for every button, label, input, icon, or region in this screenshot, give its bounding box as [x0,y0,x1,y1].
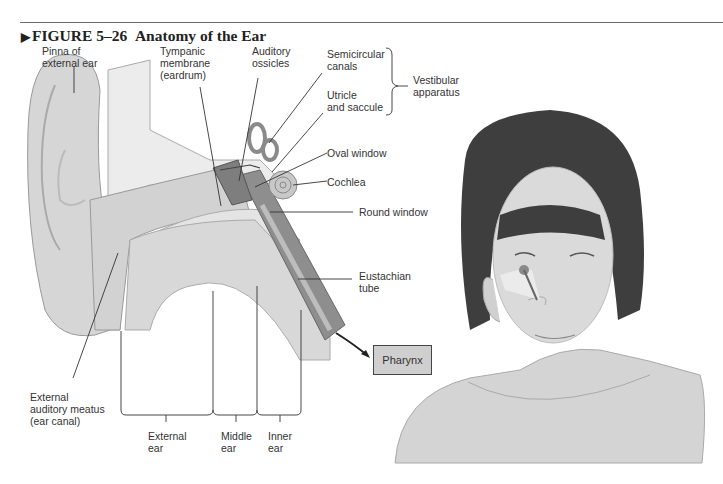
label-vestibular-apparatus: Vestibular apparatus [413,74,460,98]
face-illustration [395,110,705,463]
label-middle-ear: Middle ear [221,430,252,454]
label-semicircular-canals: Semicircular canals [327,48,385,72]
label-utricle-saccule: Utricle and saccule [327,89,383,113]
label-round-window: Round window [359,206,428,218]
label-inner-ear: Inner ear [268,430,292,454]
label-eustachian-tube: Eustachian tube [359,270,411,294]
label-auditory-ossicles: Auditory ossicles [252,45,291,69]
label-tympanic-membrane: Tympanic membrane (eardrum) [160,45,210,81]
pharynx-text: Pharynx [382,354,422,366]
label-pinna: Pinna of external ear [42,45,97,69]
ear-illustration [28,54,370,360]
ear-anatomy-illustration [0,0,723,484]
figure-page: ▶FIGURE 5–26 Anatomy of the Ear [0,0,723,484]
label-oval-window: Oval window [327,147,387,159]
label-pharynx: Pharynx [373,345,432,375]
label-external-ear: External ear [148,430,187,454]
label-external-auditory-meatus: External auditory meatus (ear canal) [30,391,105,427]
label-cochlea: Cochlea [327,176,366,188]
